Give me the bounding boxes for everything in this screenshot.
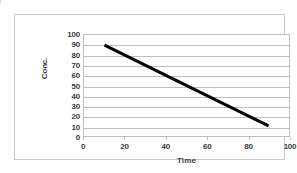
x-axis-tickmarks — [83, 137, 290, 141]
y-axis-tick-label: 90 — [53, 40, 80, 49]
y-axis-tick-label: 30 — [53, 102, 80, 111]
data-series-line — [84, 35, 289, 136]
x-axis-tick-label: 40 — [151, 142, 181, 152]
y-axis-tick-labels: 1009080706050403020100 — [53, 29, 80, 142]
x-axis-tick-label: 0 — [68, 142, 98, 152]
x-axis-title: Time — [83, 156, 290, 165]
y-axis-tick-label: 10 — [53, 122, 80, 131]
x-axis-tickmark — [166, 137, 167, 140]
x-axis-tick-label: 20 — [109, 142, 139, 152]
figure-label: ) — [0, 0, 1, 6]
x-axis-tick-label: 80 — [234, 142, 264, 152]
y-axis-tick-label: 70 — [53, 60, 80, 69]
x-axis-tick-labels: 020406080100 — [83, 142, 290, 153]
x-axis-tick-label: 60 — [192, 142, 222, 152]
y-axis-tick-label: 20 — [53, 112, 80, 121]
x-axis-tickmark — [83, 137, 84, 140]
y-axis-tick-label: 60 — [53, 71, 80, 80]
y-axis-tick-label: 100 — [53, 30, 80, 39]
x-axis-tick-label: 100 — [275, 142, 297, 152]
y-axis-tick-label: 40 — [53, 91, 80, 100]
y-axis-title: Conc. — [40, 46, 49, 92]
plot-area — [83, 34, 290, 137]
y-axis-tick-label: 80 — [53, 50, 80, 59]
chart-frame: Conc. 1009080706050403020100 02040608010… — [14, 14, 285, 160]
x-axis-tickmark — [249, 137, 250, 140]
y-axis-tick-label: 0 — [53, 133, 80, 142]
y-axis-tick-label: 50 — [53, 81, 80, 90]
x-axis-tickmark — [290, 137, 291, 140]
x-axis-tickmark — [207, 137, 208, 140]
series-polyline — [105, 45, 269, 126]
x-axis-tickmark — [124, 137, 125, 140]
